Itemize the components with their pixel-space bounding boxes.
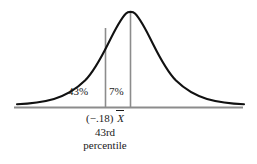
zscore-and-mean-line: (−.18) X [47, 111, 163, 125]
x-bar-letter: X [117, 112, 124, 124]
x-bar-mean-symbol: X [116, 111, 124, 125]
overbar-icon [116, 110, 124, 111]
percentile-word-label: percentile [47, 139, 163, 152]
percentile-rank-label: 43rd [47, 126, 163, 139]
normal-curve-figure: 43% 7% (−.18) X 43rd percentile [0, 0, 257, 164]
right-region-percent-label: 7% [109, 85, 124, 97]
zscore-value-label: (−.18) [86, 112, 113, 124]
axis-annotation-block: (−.18) X 43rd percentile [47, 111, 163, 152]
left-region-percent-label: 43% [68, 85, 88, 97]
